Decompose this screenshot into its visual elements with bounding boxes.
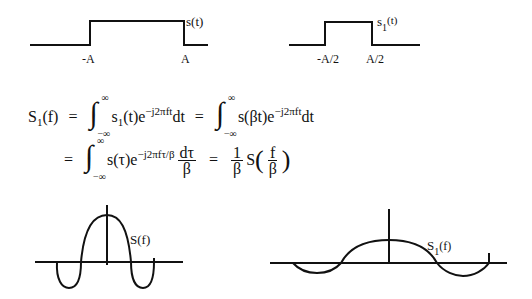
eq1-equals-1: = — [68, 108, 77, 126]
fraction-f-over-beta: fβ — [267, 145, 279, 176]
eq1-equals-2: = — [195, 108, 204, 126]
pulse-s-label: s(t) — [186, 14, 203, 29]
integral-sign-2: ∫∞−∞ — [216, 100, 234, 134]
eq1-integrand-1: s1(t)e−j2πftdt — [111, 108, 184, 126]
equation-line-1: S1(f) = ∫∞−∞ s1(t)e−j2πftdt = ∫∞−∞ s(βt)… — [28, 100, 314, 134]
eq1-lhs-fn: S — [28, 108, 37, 125]
pulse-s-left-edge-label: -A — [82, 52, 95, 66]
pulse-s-right-edge-label: A — [181, 52, 190, 66]
pulse-s1-waveform — [289, 22, 420, 45]
integral-sign-1: ∫∞−∞ — [89, 100, 107, 134]
eq2-equals-2: = — [209, 151, 218, 169]
eq1-lhs-arg: (f) — [42, 108, 58, 125]
pulse-s1-left-edge-label: -A/2 — [317, 52, 339, 66]
eq2-integrand: s(τ)e−j2πfτ/β — [107, 151, 174, 169]
pulse-s1-label: s1(t) — [377, 14, 398, 33]
spectrum-s-label: S(f) — [130, 232, 150, 247]
eq1-lhs: S1(f) — [28, 108, 58, 126]
eq2-result-fn: S — [246, 151, 255, 169]
spectrum-s1-left-sidelobe — [293, 263, 341, 273]
pulse-s-waveform — [30, 21, 208, 45]
spectrum-s1-right-sidelobe — [437, 253, 489, 276]
eq2-open-paren: ( — [255, 145, 264, 175]
eq2-close-paren: ) — [282, 145, 291, 175]
fraction-dtau-over-beta: dτβ — [178, 145, 196, 176]
fraction-one-over-beta: 1β — [231, 145, 243, 176]
eq1-lhs-sub: 1 — [37, 116, 43, 128]
equation-line-2: = ∫∞−∞ s(τ)e−j2πfτ/β dτβ = 1β S ( fβ ) — [64, 143, 291, 177]
integral-sign-3: ∫∞−∞ — [85, 143, 103, 177]
eq1-integrand-2: s(βt)e−j2πftdt — [238, 108, 314, 126]
pulse-s1-right-edge-label: A/2 — [366, 52, 384, 66]
eq2-equals-1: = — [64, 151, 73, 169]
spectrum-s-left-sidelobe — [57, 262, 81, 288]
